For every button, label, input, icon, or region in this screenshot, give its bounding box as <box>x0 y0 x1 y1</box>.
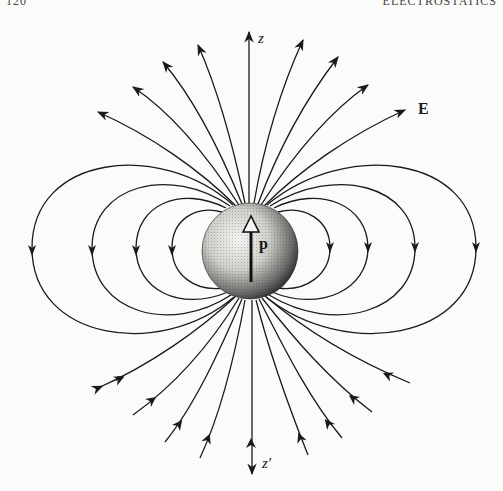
field-line-bottom <box>133 298 239 415</box>
arrow-icon <box>346 391 360 405</box>
arrow-icon <box>201 432 214 445</box>
dipole-field-diagram <box>0 0 503 491</box>
field-label-E: E <box>418 100 429 118</box>
field-line-bottom <box>265 296 410 383</box>
z-axis-label: z <box>258 30 264 47</box>
dipole-moment-label: p <box>259 235 268 253</box>
field-line-top <box>163 62 242 204</box>
bottom-arrowheads <box>113 368 394 448</box>
arrow-icon <box>294 431 307 444</box>
field-line-bottom <box>98 296 236 388</box>
field-line-bottom <box>259 299 342 438</box>
z-prime-axis-label: z′ <box>262 455 271 472</box>
arrow-icon <box>113 372 126 385</box>
arrow-icon <box>246 438 256 448</box>
arrow-icon <box>321 416 335 430</box>
field-line-bottom <box>262 298 372 412</box>
